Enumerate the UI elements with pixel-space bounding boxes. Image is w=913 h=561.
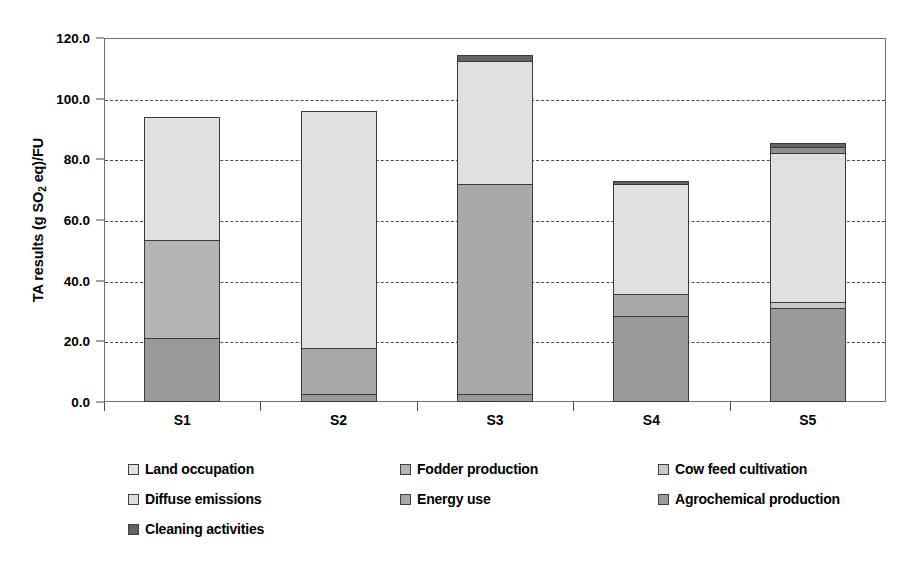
y-tick-mark	[96, 402, 104, 403]
bar-stack-s1[interactable]	[144, 38, 220, 402]
bar-segment[interactable]	[613, 316, 689, 402]
bar-segment[interactable]	[770, 308, 846, 402]
legend-item[interactable]: Cow feed cultivation	[658, 461, 807, 477]
bar-segment[interactable]	[613, 181, 689, 184]
bar-stack-s5[interactable]	[770, 38, 846, 402]
y-tick-mark	[96, 220, 104, 221]
y-tick-mark	[96, 98, 104, 99]
x-tick-mark	[573, 402, 574, 411]
legend-label: Land occupation	[145, 461, 254, 477]
bar-segment[interactable]	[301, 348, 377, 394]
bar-stack-s4[interactable]	[613, 38, 689, 402]
x-tick-label-s2: S2	[294, 412, 384, 428]
bar-stack-s3[interactable]	[457, 38, 533, 402]
legend-swatch-icon	[658, 464, 669, 475]
x-tick-label-s1: S1	[137, 412, 227, 428]
bar-segment[interactable]	[770, 143, 846, 148]
y-tick-label: 20.0	[28, 334, 90, 349]
y-tick-label: 60.0	[28, 213, 90, 228]
legend-label: Energy use	[417, 491, 490, 507]
legend-label: Fodder production	[417, 461, 538, 477]
bar-segment[interactable]	[144, 338, 220, 402]
legend-swatch-icon	[128, 524, 139, 535]
x-tick-label-s4: S4	[606, 412, 696, 428]
y-tick-label: 80.0	[28, 152, 90, 167]
y-tick-label: 40.0	[28, 273, 90, 288]
legend: Land occupationFodder productionCow feed…	[128, 461, 888, 551]
y-axis-title-sub: 2	[37, 186, 48, 191]
y-tick-mark	[96, 341, 104, 342]
legend-item[interactable]: Agrochemical production	[658, 491, 840, 507]
bars-layer	[104, 38, 886, 402]
bar-segment[interactable]	[457, 55, 533, 61]
bar-segment[interactable]	[144, 117, 220, 240]
bar-segment[interactable]	[144, 240, 220, 339]
x-tick-mark	[730, 402, 731, 411]
bar-segment[interactable]	[613, 184, 689, 295]
legend-swatch-icon	[128, 494, 139, 505]
legend-item[interactable]: Fodder production	[400, 461, 538, 477]
y-tick-label: 100.0	[28, 91, 90, 106]
bar-segment[interactable]	[457, 184, 533, 395]
legend-swatch-icon	[128, 464, 139, 475]
y-tick-label: 120.0	[28, 31, 90, 46]
bar-segment[interactable]	[770, 302, 846, 308]
y-tick-label: 0.0	[28, 395, 90, 410]
bar-segment[interactable]	[770, 153, 846, 302]
y-tick-mark	[96, 159, 104, 160]
y-tick-mark	[96, 38, 104, 39]
legend-swatch-icon	[400, 464, 411, 475]
legend-label: Cleaning activities	[145, 521, 264, 537]
y-tick-mark	[96, 280, 104, 281]
legend-swatch-icon	[400, 494, 411, 505]
bar-segment[interactable]	[457, 394, 533, 402]
x-tick-mark	[104, 402, 105, 411]
bar-segment[interactable]	[770, 147, 846, 153]
legend-item[interactable]: Energy use	[400, 491, 490, 507]
legend-label: Diffuse emissions	[145, 491, 261, 507]
bar-segment[interactable]	[301, 111, 377, 348]
legend-swatch-icon	[658, 494, 669, 505]
bar-segment[interactable]	[457, 61, 533, 184]
legend-label: Agrochemical production	[675, 491, 840, 507]
x-tick-mark	[260, 402, 261, 411]
x-tick-label-s5: S5	[763, 412, 853, 428]
bar-segment[interactable]	[613, 294, 689, 315]
legend-item[interactable]: Cleaning activities	[128, 521, 264, 537]
chart-figure: TA results (g SO2 eq)/FU 0.020.040.060.0…	[0, 0, 913, 561]
legend-item[interactable]: Land occupation	[128, 461, 254, 477]
bar-segment[interactable]	[301, 394, 377, 402]
x-tick-mark	[417, 402, 418, 411]
bar-stack-s2[interactable]	[301, 38, 377, 402]
legend-label: Cow feed cultivation	[675, 461, 807, 477]
legend-item[interactable]: Diffuse emissions	[128, 491, 261, 507]
x-tick-label-s3: S3	[450, 412, 540, 428]
